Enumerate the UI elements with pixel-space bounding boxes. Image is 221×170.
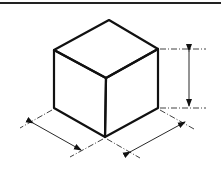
cube: [54, 20, 158, 137]
width-dimension: [33, 123, 81, 150]
cube-top-face: [54, 20, 158, 78]
diagram-canvas: [0, 0, 221, 170]
dimension-lines: [33, 51, 189, 152]
depth-dimension: [130, 122, 185, 152]
isometric-cube-diagram: [0, 0, 221, 170]
extension-lines: [20, 49, 206, 158]
cube-left-face: [54, 50, 106, 137]
cube-right-face: [105, 49, 158, 137]
